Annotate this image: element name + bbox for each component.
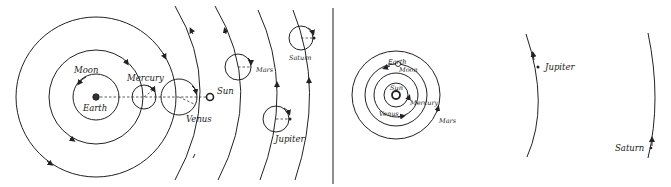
label-venus-helio: Venus <box>379 110 399 118</box>
heliocentric-panel: Earth Moon Sun Mercury Venus Mars Jupite… <box>352 33 655 158</box>
label-saturn: Saturn <box>289 54 311 62</box>
mercury-radius <box>144 90 153 97</box>
label-mercury: Mercury <box>126 73 164 83</box>
label-mars: Mars <box>255 66 274 74</box>
label-venus: Venus <box>186 114 212 124</box>
venus-arrow-icon <box>398 116 403 117</box>
jupiter-deferent-arc <box>258 10 277 180</box>
sun-icon-helio <box>392 91 400 99</box>
label-sun-helio: Sun <box>390 84 403 92</box>
label-earth-helio: Earth <box>387 58 407 66</box>
sun-arc-arrow2 <box>193 154 195 158</box>
label-mars-helio: Mars <box>438 117 457 125</box>
jupiter-epicycle-arrow-icon <box>284 108 289 113</box>
mars-arrow-icon <box>437 108 438 112</box>
venus-radius <box>179 97 194 104</box>
sun-arc-arrow-icon <box>191 30 193 34</box>
label-earth: Earth <box>82 103 107 113</box>
mercury-epicycle-arrow-icon <box>148 86 154 90</box>
jupiter-dot-helio <box>537 66 540 69</box>
solar-system-diagram: Moon Earth Mercury Venus Sun Mars Jupite… <box>0 0 671 187</box>
label-sun: Sun <box>217 86 234 96</box>
label-moon: Moon <box>73 65 98 75</box>
label-jupiter-helio: Jupiter <box>543 62 575 72</box>
saturn-deferent-arc <box>293 10 310 180</box>
sun-icon <box>207 94 214 101</box>
label-saturn-helio: Saturn <box>615 143 644 153</box>
venus-deferent-arrow-icon <box>163 53 165 57</box>
earth-arrow-icon <box>385 66 390 68</box>
saturn-dot <box>313 37 316 40</box>
mars-arc-arrow-icon <box>225 30 226 34</box>
geocentric-panel: Moon Earth Mercury Venus Sun Mars Jupite… <box>16 6 316 180</box>
saturn-dot-helio <box>650 147 653 150</box>
jupiter-dot <box>289 118 292 121</box>
earth-icon <box>93 94 99 100</box>
label-moon-helio: Moon <box>398 66 418 74</box>
label-jupiter: Jupiter <box>273 134 305 144</box>
label-mercury-helio: Mercury <box>409 99 439 107</box>
jupiter-orbit-arc <box>526 34 538 157</box>
